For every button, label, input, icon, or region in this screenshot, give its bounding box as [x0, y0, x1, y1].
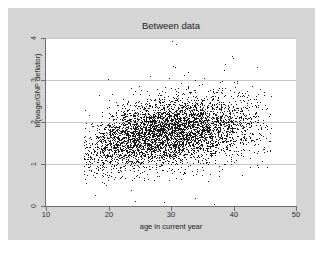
scatter-point	[232, 145, 233, 146]
scatter-point	[261, 135, 262, 136]
scatter-point	[142, 112, 143, 113]
scatter-point	[139, 177, 140, 178]
scatter-point	[181, 179, 182, 180]
scatter-point	[190, 140, 191, 141]
scatter-point	[178, 156, 179, 157]
scatter-point	[222, 141, 223, 142]
scatter-point	[157, 176, 158, 177]
scatter-point	[195, 106, 196, 107]
scatter-point	[258, 94, 259, 95]
scatter-point	[261, 129, 262, 130]
scatter-point	[163, 123, 164, 124]
scatter-point	[226, 138, 227, 139]
scatter-point	[202, 144, 203, 145]
scatter-point	[136, 113, 137, 114]
scatter-point	[198, 105, 199, 106]
scatter-point	[243, 122, 244, 123]
scatter-point	[229, 107, 230, 108]
scatter-point	[120, 126, 121, 127]
scatter-point	[207, 137, 208, 138]
scatter-point	[90, 159, 91, 160]
scatter-point	[212, 109, 213, 110]
scatter-point	[197, 147, 198, 148]
scatter-point	[257, 67, 258, 68]
scatter-point	[136, 145, 137, 146]
scatter-point	[146, 106, 147, 107]
scatter-point	[236, 104, 237, 105]
scatter-point	[191, 142, 192, 143]
scatter-point	[202, 134, 203, 135]
scatter-point	[87, 147, 88, 148]
scatter-point	[222, 116, 223, 117]
scatter-point	[195, 135, 196, 136]
scatter-point	[203, 148, 204, 149]
scatter-point	[230, 140, 231, 141]
scatter-point	[250, 138, 251, 139]
scatter-point	[212, 134, 213, 135]
scatter-point	[204, 100, 205, 101]
scatter-point	[269, 116, 270, 117]
scatter-point	[203, 140, 204, 141]
y-tick-label-1: 1	[30, 159, 38, 169]
scatter-point	[117, 117, 118, 118]
scatter-point	[135, 106, 136, 107]
scatter-point	[207, 120, 208, 121]
scatter-point	[92, 144, 93, 145]
scatter-point	[128, 160, 129, 161]
scatter-point	[137, 165, 138, 166]
scatter-point	[210, 141, 211, 142]
scatter-point	[110, 130, 111, 131]
scatter-point	[128, 148, 129, 149]
scatter-point	[97, 130, 98, 131]
scatter-point	[101, 142, 102, 143]
scatter-point	[97, 136, 98, 137]
scatter-point	[169, 180, 170, 181]
scatter-point	[181, 118, 182, 119]
scatter-point	[200, 148, 201, 149]
scatter-point	[186, 113, 187, 114]
scatter-point	[252, 86, 253, 87]
scatter-point	[154, 151, 155, 152]
scatter-point	[110, 149, 111, 150]
scatter-point	[198, 111, 199, 112]
scatter-point	[253, 122, 254, 123]
scatter-point	[124, 134, 125, 135]
scatter-point	[98, 170, 99, 171]
scatter-point	[122, 108, 123, 109]
scatter-point	[163, 151, 164, 152]
scatter-point	[227, 134, 228, 135]
scatter-point	[221, 125, 222, 126]
scatter-point	[122, 105, 123, 106]
scatter-point	[119, 151, 120, 152]
scatter-point	[165, 161, 166, 162]
scatter-point	[156, 150, 157, 151]
scatter-point	[103, 169, 104, 170]
scatter-point	[257, 122, 258, 123]
scatter-point	[160, 105, 161, 106]
scatter-point	[103, 173, 104, 174]
scatter-point	[242, 93, 243, 94]
scatter-point	[185, 113, 186, 114]
y-tick-mark-0	[41, 206, 45, 207]
scatter-point	[237, 96, 238, 97]
scatter-point	[91, 153, 92, 154]
scatter-point	[152, 142, 153, 143]
scatter-point	[188, 128, 189, 129]
scatter-point	[141, 103, 142, 104]
scatter-point	[195, 198, 196, 199]
scatter-point	[240, 96, 241, 97]
scatter-point	[118, 170, 119, 171]
scatter-point	[161, 136, 162, 137]
scatter-point	[180, 141, 181, 142]
scatter-point	[147, 99, 148, 100]
scatter-point	[256, 112, 257, 113]
scatter-point	[184, 148, 185, 149]
scatter-point	[248, 142, 249, 143]
scatter-point	[109, 126, 110, 127]
scatter-point	[238, 125, 239, 126]
scatter-point	[163, 154, 164, 155]
scatter-point	[160, 110, 161, 111]
scatter-point	[148, 130, 149, 131]
scatter-point	[128, 122, 129, 123]
scatter-point	[92, 163, 93, 164]
